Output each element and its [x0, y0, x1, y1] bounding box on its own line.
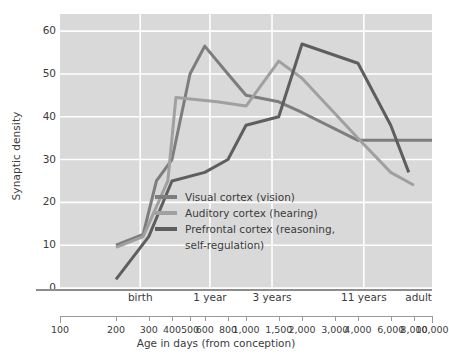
y-tick-label: 30 — [30, 154, 56, 164]
x-tick-label: 200 — [107, 324, 125, 335]
milestone-labels: birth1 year3 years11 yearsadult — [60, 291, 432, 307]
legend-label: Auditory cortex (hearing) — [185, 206, 318, 220]
x-tick-label: 10,000 — [415, 324, 448, 335]
y-axis-tick-labels: 0102030405060 — [22, 0, 56, 300]
x-axis-title: Age in days (from conception) — [0, 337, 432, 349]
y-tick-label: 50 — [30, 68, 56, 78]
legend-label: Prefrontal cortex (reasoning, — [185, 222, 335, 236]
milestone-label: 3 years — [253, 291, 292, 303]
x-tick-label: 100 — [51, 324, 69, 335]
x-tick-label: 4,000 — [344, 324, 371, 335]
y-tick-label: 60 — [30, 25, 56, 35]
milestone-label: 11 years — [341, 291, 387, 303]
x-tick-mark — [335, 316, 336, 321]
legend-swatch-icon — [155, 227, 177, 231]
plot-area: Visual cortex (vision)Auditory cortex (h… — [60, 14, 432, 288]
milestone-label: adult — [405, 291, 432, 303]
milestone-label: birth — [128, 291, 153, 303]
x-tick-mark — [149, 316, 150, 321]
x-tick-label: 400 — [163, 324, 181, 335]
x-tick-mark — [358, 316, 359, 321]
x-tick-mark — [432, 316, 433, 323]
y-tick-label: 0 — [30, 282, 56, 292]
y-tick-label: 40 — [30, 111, 56, 121]
x-tick-label: 1,000 — [232, 324, 259, 335]
legend-label-line2: self-regulation) — [185, 238, 264, 252]
legend-swatch-icon — [155, 211, 177, 215]
legend-label: Visual cortex (vision) — [185, 190, 295, 204]
x-tick-label: 2,000 — [288, 324, 315, 335]
x-tick-mark — [302, 316, 303, 321]
x-tick-mark — [205, 316, 206, 321]
x-tick-mark — [172, 316, 173, 321]
x-tick-mark — [116, 316, 117, 321]
legend-swatch-icon — [155, 195, 177, 199]
y-tick-label: 20 — [30, 196, 56, 206]
x-tick-mark — [414, 316, 415, 321]
milestone-label: 1 year — [193, 291, 226, 303]
x-tick-mark — [246, 316, 247, 321]
x-tick-mark — [391, 316, 392, 321]
x-tick-mark — [60, 316, 61, 323]
y-axis-title: Synaptic density — [10, 76, 22, 236]
x-tick-mark — [228, 316, 229, 321]
x-tick-label: 300 — [140, 324, 158, 335]
x-tick-mark — [190, 316, 191, 321]
x-tick-mark — [279, 316, 280, 321]
x-tick-label: 600 — [196, 324, 214, 335]
y-tick-label: 10 — [30, 239, 56, 249]
